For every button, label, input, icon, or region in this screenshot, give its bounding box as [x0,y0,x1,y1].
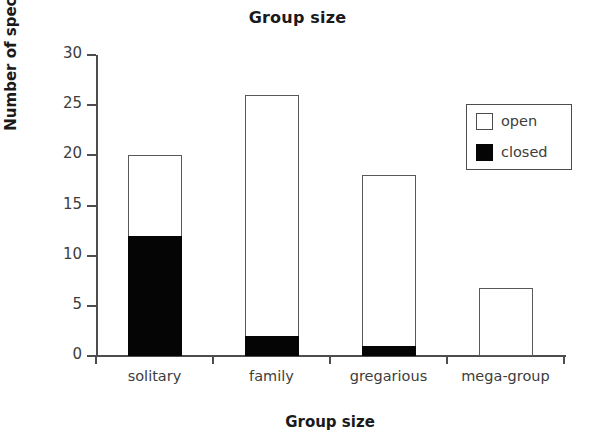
legend-item-open[interactable]: open [476,110,537,132]
x-tick-mark [446,355,448,364]
y-tick-mark [87,305,96,307]
bar-segment-open[interactable] [479,288,533,356]
y-tick-label: 0 [46,347,82,362]
y-tick-mark [87,205,96,207]
y-tick-label-wrap: 10 [44,247,82,262]
y-tick-label-wrap: 30 [44,46,82,61]
plot-area [96,55,564,356]
y-tick-label: 5 [46,297,82,312]
y-tick-label-wrap: 0 [44,347,82,362]
chart-title: Group size [0,8,595,27]
x-axis-title: Group size [96,413,564,431]
bar-segment-closed[interactable] [362,346,416,356]
bar-gregarious[interactable] [362,175,416,356]
bar-segment-open[interactable] [362,175,416,356]
bar-solitary[interactable] [128,155,182,356]
y-tick-label-wrap: 20 [44,146,82,161]
x-tick-mark [212,355,214,364]
x-category-label: gregarious [330,368,447,384]
legend-label-open: open [501,114,537,129]
y-tick-label: 30 [46,46,82,61]
y-tick-label-wrap: 15 [44,197,82,212]
y-tick-label: 10 [46,247,82,262]
y-tick-label: 20 [46,146,82,161]
chart-container: Group size Number of species 05101520253… [0,0,595,446]
bar-segment-open[interactable] [245,95,299,356]
y-tick-mark [87,255,96,257]
x-category-label: mega-group [447,368,564,384]
legend-swatch-closed-icon [476,144,493,161]
y-tick-label: 15 [46,197,82,212]
bar-family[interactable] [245,95,299,356]
y-tick-mark [87,154,96,156]
y-tick-label-wrap: 5 [44,297,82,312]
bar-segment-closed[interactable] [245,336,299,356]
x-tick-mark [329,355,331,364]
y-tick-label-wrap: 25 [44,96,82,111]
y-tick-mark [87,54,96,56]
x-tick-mark [95,355,97,364]
y-tick-mark [87,104,96,106]
legend-label-closed: closed [501,145,548,160]
y-tick-label: 25 [46,96,82,111]
legend-swatch-open-icon [476,113,493,130]
y-axis-title: Number of species [2,0,24,142]
x-tick-mark [563,355,565,364]
x-category-label: solitary [96,368,213,384]
legend-item-closed[interactable]: closed [476,141,548,163]
bar-mega-group[interactable] [479,288,533,356]
bar-segment-closed[interactable] [128,236,182,356]
x-category-label: family [213,368,330,384]
chart-legend: open closed [466,104,572,170]
